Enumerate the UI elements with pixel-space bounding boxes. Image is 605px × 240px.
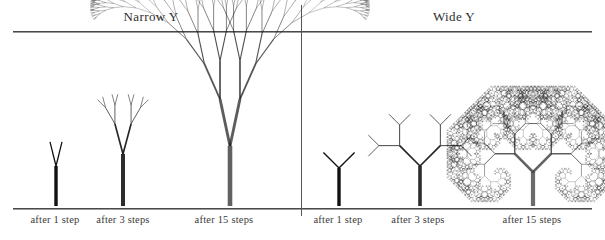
tree-wide-step-3 <box>372 98 468 208</box>
fractal-tree-figure: Narrow Y Wide Y after 1 step after 3 ste… <box>0 0 605 240</box>
caption-narrow-step-1: after 1 step <box>30 214 79 225</box>
top-rule <box>13 31 592 32</box>
tree-narrow-step-3 <box>88 96 158 208</box>
panel-divider <box>301 5 302 216</box>
caption-wide-step-1: after 1 step <box>313 214 362 225</box>
panel-title-wide-y: Wide Y <box>303 9 605 25</box>
tree-wide-step-15 <box>466 78 600 208</box>
tree-wide-step-1 <box>312 128 366 208</box>
caption-wide-step-15: after 15 steps <box>503 214 562 225</box>
caption-narrow-step-3: after 3 steps <box>96 214 149 225</box>
tree-narrow-step-15 <box>160 48 300 208</box>
panel-title-narrow-y: Narrow Y <box>0 9 302 25</box>
caption-narrow-step-15: after 15 steps <box>195 214 254 225</box>
caption-wide-step-3: after 3 steps <box>391 214 444 225</box>
bottom-rule <box>13 208 592 209</box>
tree-narrow-step-1 <box>30 128 82 208</box>
